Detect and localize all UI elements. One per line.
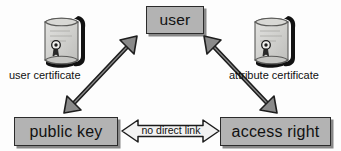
node-user-label: user <box>160 12 191 28</box>
user-certificate-icon <box>45 16 85 68</box>
node-access-right[interactable]: access right <box>220 117 331 146</box>
attribute-certificate-icon <box>255 16 295 68</box>
diagram-canvas: user public key access right user certif… <box>0 0 341 151</box>
node-access-right-label: access right <box>232 124 320 140</box>
attribute-certificate-caption: attribute certificate <box>229 70 319 81</box>
user-certificate-caption: user certificate <box>9 70 81 81</box>
node-user[interactable]: user <box>146 6 204 34</box>
node-public-key-label: public key <box>29 124 102 140</box>
no-direct-link-label: no direct link <box>129 125 213 136</box>
node-public-key[interactable]: public key <box>14 117 118 146</box>
